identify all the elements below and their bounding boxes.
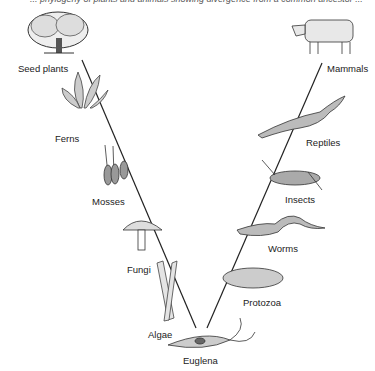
- tree-icon: [28, 12, 88, 53]
- label-mosses: Mosses: [92, 196, 125, 207]
- protozoa-icon: [223, 268, 283, 288]
- phylogeny-diagram: [0, 0, 375, 371]
- lizard-icon: [258, 96, 345, 138]
- label-protozoa: Protozoa: [243, 297, 281, 308]
- fern-icon: [62, 72, 108, 108]
- label-seed-plants: Seed plants: [18, 63, 68, 74]
- label-ferns: Ferns: [55, 133, 79, 144]
- label-insects: Insects: [285, 194, 315, 205]
- label-fungi: Fungi: [127, 264, 151, 275]
- euglena-icon: [168, 318, 255, 348]
- worm-icon: [237, 216, 325, 236]
- label-algae: Algae: [148, 329, 172, 340]
- moss-icon: [104, 145, 128, 185]
- grasshopper-icon: [262, 160, 322, 190]
- algae-icon: [157, 261, 177, 321]
- label-worms: Worms: [268, 243, 298, 254]
- label-mammals: Mammals: [327, 63, 368, 74]
- label-reptiles: Reptiles: [306, 137, 340, 148]
- cow-icon: [292, 20, 353, 54]
- label-euglena: Euglena: [183, 355, 218, 366]
